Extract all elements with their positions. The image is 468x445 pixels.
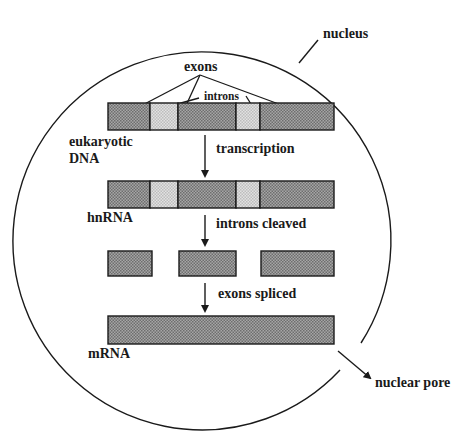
step-transcription-label: transcription	[216, 141, 295, 156]
exons-label: exons	[184, 59, 218, 74]
introns-label: introns	[204, 90, 239, 102]
hnrna-label: hnRNA	[87, 210, 134, 225]
nucleus-label: nucleus	[323, 26, 369, 41]
step-introns-cleaved-label: introns cleaved	[216, 216, 307, 231]
mrna-strand	[108, 316, 334, 344]
mrna-label: mRNA	[88, 346, 131, 361]
nucleus-pointer-line	[299, 40, 318, 63]
dna-label-line1: eukaryotic	[69, 134, 133, 149]
dna-label-line2: DNA	[69, 151, 100, 166]
hnrna-strand	[108, 181, 334, 208]
nuclear-pore-arrow-icon	[338, 351, 370, 378]
cleaved-exons	[108, 251, 334, 276]
step-exons-spliced-label: exons spliced	[218, 286, 296, 301]
dna-strand	[108, 103, 334, 130]
splicing-diagram: nucleus exons introns eukaryotic DNA tra…	[0, 0, 468, 445]
nuclear-pore-label: nuclear pore	[375, 375, 450, 390]
